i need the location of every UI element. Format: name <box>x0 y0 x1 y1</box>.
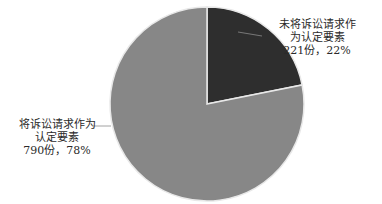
label-line: 未将诉讼请求作 <box>262 18 372 31</box>
label-value: 221份，22% <box>262 44 372 57</box>
label-line: 认定要素 <box>2 131 112 144</box>
label-line: 为认定要素 <box>262 31 372 44</box>
label-line: 将诉讼请求作为 <box>2 118 112 131</box>
slice-label-not-as-element: 未将诉讼请求作 为认定要素 221份，22% <box>262 18 372 57</box>
slice-label-as-element: 将诉讼请求作为 认定要素 790份，78% <box>2 118 112 157</box>
label-value: 790份，78% <box>2 144 112 157</box>
